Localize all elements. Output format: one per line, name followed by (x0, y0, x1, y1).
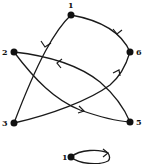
node-2: 2 (2, 47, 18, 57)
node-label: 2 (2, 47, 8, 57)
node-label: 1 (62, 152, 68, 162)
node-label: 6 (136, 47, 142, 57)
node-1: 1 (68, 0, 75, 19)
edge-6-to-1 (71, 15, 130, 52)
edge-5-to-2 (14, 52, 130, 122)
arrowhead-icon (113, 29, 122, 34)
edge-self-loop (71, 149, 110, 164)
directed-graph: 1 2 3 5 6 1 (0, 0, 143, 164)
edge-2-to-5 (14, 52, 130, 122)
node-1-isolated: 1 (62, 152, 75, 162)
node-label: 1 (68, 0, 74, 10)
edge-3-to-6 (14, 52, 130, 123)
node-label: 3 (2, 118, 8, 128)
arrowhead-icon (41, 41, 51, 47)
node-label: 5 (136, 117, 142, 127)
edge-1-to-3 (14, 15, 71, 123)
arrowhead-icon (103, 149, 108, 157)
